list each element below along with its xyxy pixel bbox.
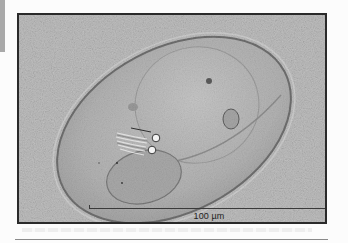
micrograph-figure: 100 µm	[17, 13, 327, 224]
bleed-through-text	[22, 228, 312, 232]
scale-bar	[89, 208, 326, 209]
margin-tab	[0, 0, 5, 52]
scale-bar-label: 100 µm	[179, 211, 239, 221]
micrograph-image	[19, 15, 325, 222]
separator-line	[15, 239, 328, 240]
page: 100 µm	[0, 0, 348, 243]
